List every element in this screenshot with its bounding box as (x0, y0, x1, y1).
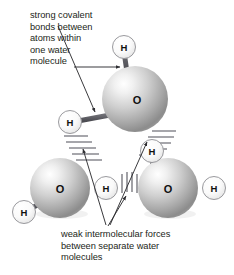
left-water-molecule: O H H (13, 158, 118, 224)
leader-to-center-dashes (108, 196, 126, 226)
caption-weak-intermolecular-forces: weak intermolecular forces between separ… (61, 229, 170, 264)
bond-center-vertical (122, 172, 137, 193)
hydrogen-label: H (121, 42, 128, 53)
hydrogen-label: H (67, 117, 74, 128)
oxygen-label: O (164, 183, 173, 195)
bond-left-diagonal (64, 136, 102, 160)
right-water-molecule: O H H (138, 140, 226, 220)
hydrogen-label: H (103, 183, 110, 194)
hydrogen-label: H (211, 183, 218, 194)
hydrogen-label: H (149, 146, 156, 157)
oxygen-label: O (133, 94, 142, 106)
water-hydrogen-bonding-diagram: O H H O H H O H H (0, 0, 234, 275)
hydrogen-label: H (21, 207, 28, 218)
caption-strong-covalent-bonds: strong covalent bonds between atoms with… (30, 10, 92, 68)
oxygen-label: O (56, 183, 65, 195)
covalent-bond-top-left (78, 115, 110, 121)
